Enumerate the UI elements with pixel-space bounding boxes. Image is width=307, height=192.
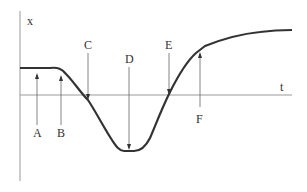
marker-c-label: C — [84, 38, 92, 52]
t-axis-label: t — [280, 80, 284, 94]
marker-a-label: A — [33, 126, 42, 140]
y-axis-label: x — [27, 14, 33, 28]
marker-e-label: E — [165, 38, 172, 52]
marker-d-label: D — [125, 52, 134, 66]
marker-f-label: F — [196, 112, 203, 126]
diagram-canvas: x t A B C D E F — [0, 0, 307, 192]
marker-b-label: B — [57, 126, 65, 140]
